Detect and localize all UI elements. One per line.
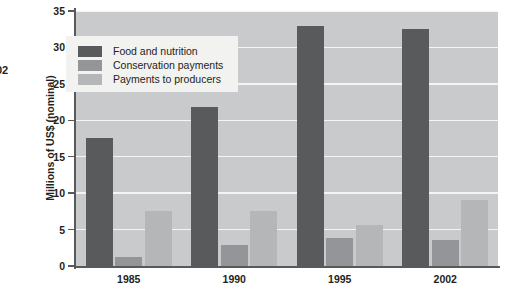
bar xyxy=(115,257,142,266)
y-tick-label: 30 xyxy=(40,42,65,53)
gridline xyxy=(76,229,498,231)
y-tick-label: 35 xyxy=(40,6,65,17)
bar xyxy=(250,211,277,266)
bar xyxy=(402,29,429,266)
x-tick-label: 1985 xyxy=(89,273,169,285)
gridline xyxy=(76,156,498,158)
legend-label: Food and nutrition xyxy=(113,46,198,57)
bar xyxy=(221,245,248,266)
y-tick-mark xyxy=(68,156,75,158)
y-tick-mark xyxy=(68,192,75,194)
gridline xyxy=(76,120,498,122)
y-tick-mark xyxy=(68,229,75,231)
legend-swatch-icon xyxy=(78,46,102,57)
legend-swatch-icon xyxy=(78,60,102,71)
y-axis-title: Millions of US$ (nominal) xyxy=(44,43,56,233)
y-tick-mark xyxy=(68,265,75,267)
legend-swatch-icon xyxy=(78,74,102,85)
legend-label: Payments to producers xyxy=(113,74,221,85)
legend-item: Payments to producers xyxy=(78,73,221,86)
y-tick-mark xyxy=(68,120,75,122)
legend-item: Food and nutrition xyxy=(78,45,198,58)
y-tick-label: 5 xyxy=(40,225,65,236)
bar xyxy=(326,238,353,266)
bar xyxy=(297,26,324,266)
y-tick-mark xyxy=(68,10,75,12)
y-tick-label: 10 xyxy=(40,188,65,199)
bar xyxy=(191,107,218,266)
clipped-margin-text: 02 xyxy=(0,64,8,76)
bar xyxy=(86,138,113,266)
gridline xyxy=(76,11,498,12)
x-tick-label: 1995 xyxy=(300,273,380,285)
legend-item: Conservation payments xyxy=(78,59,223,72)
bar xyxy=(356,225,383,266)
chart-legend: Food and nutritionConservation paymentsP… xyxy=(66,36,238,92)
y-tick-label: 0 xyxy=(40,261,65,272)
bar xyxy=(461,200,488,266)
y-tick-label: 25 xyxy=(40,79,65,90)
x-axis-line xyxy=(74,266,500,268)
x-tick-label: 1990 xyxy=(194,273,274,285)
gridline xyxy=(76,192,498,194)
bar xyxy=(145,211,172,266)
legend-label: Conservation payments xyxy=(113,60,223,71)
x-tick-label: 2002 xyxy=(405,273,485,285)
bar-chart-figure: 02 Millions of US$ (nominal) 05101520253… xyxy=(0,0,512,294)
y-tick-label: 20 xyxy=(40,115,65,126)
bar xyxy=(432,240,459,266)
y-tick-label: 15 xyxy=(40,152,65,163)
